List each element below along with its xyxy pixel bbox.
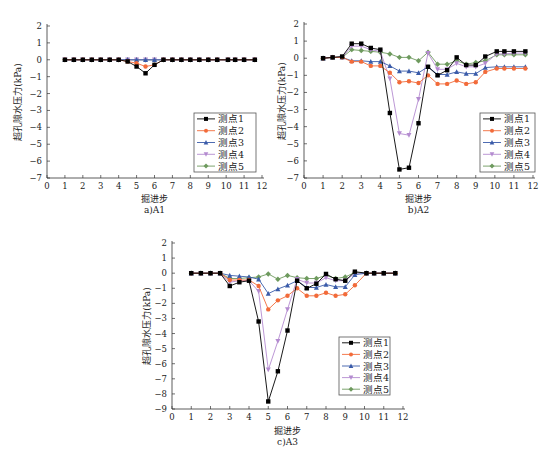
legend-label: 测点5 (504, 161, 530, 172)
data-point-marker (275, 339, 280, 344)
y-tick-label: 0 (162, 268, 167, 278)
x-tick-label: 2 (80, 181, 85, 191)
data-point-marker (189, 271, 193, 275)
data-point-marker (226, 58, 230, 62)
x-axis-label: 掘进步 (405, 193, 432, 204)
data-point-marker (125, 59, 129, 63)
x-tick-label: 2 (339, 181, 344, 191)
y-tick-label: −3 (154, 313, 167, 323)
x-tick-label: 8 (188, 181, 193, 191)
legend-label: 测点2 (218, 125, 244, 136)
legend-label: 测点4 (504, 149, 530, 160)
data-point-marker (474, 80, 478, 84)
x-tick-label: 1 (189, 412, 194, 422)
data-point-marker (242, 58, 246, 62)
data-point-marker (256, 284, 260, 288)
data-point-marker (372, 271, 376, 275)
data-point-marker (495, 49, 499, 53)
data-point-marker (445, 82, 449, 86)
y-tick-label: −1 (286, 70, 299, 80)
x-tick-label: 8 (454, 181, 459, 191)
x-tick-label: 10 (489, 181, 500, 191)
data-point-marker (495, 66, 499, 70)
y-tick-label: −7 (286, 173, 299, 183)
y-tick-label: 1 (294, 36, 299, 46)
data-point-marker (353, 283, 357, 287)
series-line (191, 273, 395, 309)
data-point-marker (407, 79, 411, 83)
x-tick-label: 12 (528, 181, 539, 191)
data-point-marker (324, 282, 329, 287)
x-tick-label: 7 (170, 181, 175, 191)
x-tick-label: 0 (169, 412, 174, 422)
y-axis-label: 超孔隙水压力(kPa) (12, 63, 23, 141)
data-point-marker (237, 280, 241, 284)
y-tick-label: −6 (154, 359, 167, 369)
data-point-marker (208, 271, 212, 275)
legend-label: 测点3 (218, 137, 244, 148)
y-tick-label: −5 (154, 344, 167, 354)
data-point-marker (444, 62, 449, 67)
chart-a1: 210−1−2−3−4−5−6−70123456789101112掘进步超孔隙水… (12, 21, 267, 204)
x-tick-label: 4 (246, 412, 251, 422)
y-tick-label: −4 (286, 122, 299, 132)
x-tick-label: 0 (44, 181, 49, 191)
data-point-marker (388, 71, 392, 75)
chart-a2: 210−1−2−3−4−5−6−70123456789101112掘进步超孔隙水… (276, 19, 538, 204)
data-point-marker (90, 58, 94, 62)
data-point-marker (426, 65, 430, 69)
y-tick-label: 2 (162, 238, 167, 248)
x-tick-label: 6 (416, 181, 421, 191)
y-tick-label: 1 (37, 38, 42, 48)
data-point-marker (454, 55, 458, 59)
data-point-marker (215, 58, 219, 62)
x-tick-label: 4 (378, 181, 383, 191)
data-point-marker (285, 294, 289, 298)
data-point-marker (256, 319, 260, 323)
data-point-marker (502, 49, 506, 53)
x-tick-label: 8 (323, 412, 328, 422)
x-axis-label: 掘进步 (274, 425, 301, 436)
data-point-marker (416, 121, 420, 125)
charts-svg: 210−1−2−3−4−5−6−70123456789101112掘进步超孔隙水… (0, 0, 555, 464)
data-point-marker (483, 54, 487, 58)
y-axis-label: 超孔隙水压力(kPa) (276, 62, 287, 140)
data-point-marker (161, 58, 165, 62)
y-tick-label: −6 (286, 156, 299, 166)
x-tick-label: 10 (359, 412, 370, 422)
y-tick-label: −2 (154, 298, 167, 308)
data-point-marker (305, 286, 309, 290)
data-point-marker (99, 58, 103, 62)
x-tick-label: 2 (208, 412, 213, 422)
chart-a3: 210−1−2−3−4−5−6−7−8−90123456789101112掘进步… (141, 238, 408, 436)
x-tick-label: 12 (398, 412, 409, 422)
y-tick-label: −2 (286, 87, 299, 97)
data-point-marker (397, 80, 401, 84)
y-tick-label: −6 (29, 156, 42, 166)
data-point-marker (108, 58, 112, 62)
data-point-marker (276, 298, 280, 302)
y-tick-label: −7 (29, 173, 42, 183)
data-point-marker (324, 272, 328, 276)
data-point-marker (393, 271, 397, 275)
x-tick-label: 11 (378, 412, 389, 422)
data-point-marker (199, 271, 203, 275)
data-point-marker (204, 129, 208, 133)
data-point-marker (204, 117, 208, 121)
data-point-marker (523, 49, 527, 53)
data-point-marker (314, 294, 318, 298)
x-tick-label: 11 (239, 181, 250, 191)
data-point-marker (512, 66, 516, 70)
data-point-marker (228, 278, 232, 282)
data-point-marker (369, 64, 373, 68)
data-point-marker (340, 54, 344, 58)
data-point-marker (305, 294, 309, 298)
data-point-marker (445, 68, 449, 72)
legend: 测点1测点2测点3测点4测点5 (339, 337, 390, 395)
data-point-marker (343, 279, 347, 283)
y-tick-label: −7 (154, 374, 167, 384)
legend: 测点1测点2测点3测点4测点5 (194, 113, 256, 172)
x-tick-label: 9 (473, 181, 478, 191)
data-point-marker (387, 63, 392, 68)
data-point-marker (416, 81, 420, 85)
